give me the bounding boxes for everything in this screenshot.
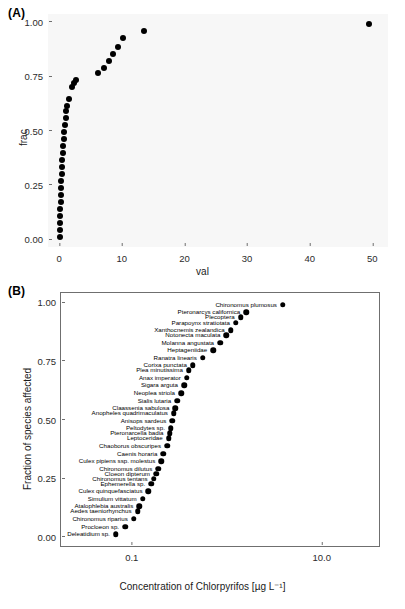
data-point	[233, 320, 239, 326]
data-point	[184, 375, 190, 381]
data-point	[59, 164, 65, 170]
species-label: Culex pipiens ssp. molestus	[79, 458, 159, 464]
tick-mark	[132, 542, 133, 545]
tick-mark	[62, 419, 65, 420]
y-tick-label: 1.00	[38, 297, 62, 308]
tick-mark	[49, 184, 52, 185]
data-point	[217, 340, 223, 346]
data-point	[173, 405, 179, 411]
x-tick-label: 10	[117, 247, 128, 264]
tick-mark	[49, 21, 52, 22]
data-point	[141, 28, 147, 34]
data-point	[110, 51, 116, 57]
panel-b-points-layer: Deleatidium sp.Procloeon sp.Chironomus r…	[61, 293, 379, 546]
x-tick-label: 0.1	[125, 546, 138, 563]
data-point	[61, 129, 67, 135]
tick-mark	[49, 76, 52, 77]
data-point	[57, 227, 63, 233]
y-tick-label: 0.00	[38, 531, 62, 542]
panel-b-plot-area: Deleatidium sp.Procloeon sp.Chironomus r…	[60, 292, 380, 547]
x-tick-label: 20	[179, 247, 190, 264]
data-point	[210, 347, 216, 353]
panel-a-plot-area: 0.000.250.500.751.00 01020304050	[48, 14, 388, 247]
tick-mark	[247, 243, 248, 246]
data-point	[243, 310, 249, 316]
data-point	[153, 471, 159, 477]
tick-mark	[62, 536, 65, 537]
panel-a: (A) frac 0.000.250.500.751.00 0102030405…	[0, 0, 405, 278]
panel-b-x-axis-title: Concentration of Chlorpyrifos [µg L⁻¹]	[0, 581, 405, 592]
data-point	[73, 77, 79, 83]
y-tick-label: 0.75	[25, 71, 49, 82]
data-point	[64, 103, 70, 109]
data-point	[200, 355, 206, 361]
species-label: Atalophlebia australis	[74, 503, 136, 509]
data-point	[60, 143, 66, 149]
figure-root: (A) frac 0.000.250.500.751.00 0102030405…	[0, 0, 405, 609]
data-point	[59, 171, 65, 177]
data-point	[115, 44, 121, 50]
data-point	[57, 234, 63, 240]
panel-b: (B) Fraction of species affected Deleati…	[0, 278, 405, 609]
data-point	[95, 70, 101, 76]
species-label: Pteronarcys californica	[178, 309, 244, 315]
data-point	[167, 431, 173, 437]
data-point	[155, 466, 161, 472]
species-label: Peltodytes sp.	[126, 425, 168, 431]
y-tick-label: 0.25	[38, 473, 62, 484]
tick-mark	[49, 239, 52, 240]
data-point	[58, 192, 64, 198]
species-label: Corixa punctata	[144, 362, 190, 368]
y-tick-label: 0.50	[25, 125, 49, 136]
data-point	[280, 302, 286, 308]
data-point	[131, 516, 137, 522]
data-point	[101, 65, 107, 71]
x-tick-label: 0	[57, 247, 62, 264]
tick-mark	[49, 130, 52, 131]
data-point	[57, 213, 63, 219]
data-point	[366, 21, 372, 27]
data-point	[161, 451, 167, 457]
y-tick-label: 1.00	[25, 16, 49, 27]
species-label: Chironomus riparius	[72, 516, 130, 522]
data-point	[228, 327, 234, 333]
data-point	[58, 199, 64, 205]
x-tick-label: 50	[367, 247, 378, 264]
data-point	[58, 185, 64, 191]
data-point	[57, 220, 63, 226]
data-point	[174, 398, 180, 404]
x-tick-label: 40	[304, 247, 315, 264]
data-point	[181, 383, 187, 389]
data-point	[60, 150, 66, 156]
data-point	[166, 436, 172, 442]
tick-mark	[184, 243, 185, 246]
species-label: Deleatidium sp.	[67, 531, 113, 537]
tick-mark	[310, 243, 311, 246]
data-point	[58, 178, 64, 184]
tick-mark	[62, 302, 65, 303]
species-label: Procloeon sp.	[81, 523, 122, 529]
species-label: Xanthocnemis zealandica	[154, 327, 228, 333]
data-point	[140, 496, 146, 502]
species-label: Ranatra linearis	[154, 355, 200, 361]
panel-a-points-layer	[48, 14, 388, 247]
y-tick-label: 0.25	[25, 179, 49, 190]
tick-mark	[59, 243, 60, 246]
species-label: Simulium vittatum	[88, 496, 140, 502]
species-label: Caenis horaria	[117, 450, 160, 456]
data-point	[113, 531, 119, 537]
x-tick-label: 10.0	[313, 546, 332, 563]
data-point	[120, 35, 126, 41]
y-tick-label: 0.75	[38, 355, 62, 366]
panel-b-tag: (B)	[8, 284, 25, 298]
species-label: Anax imperator	[139, 375, 184, 381]
panel-a-tag: (A)	[8, 6, 25, 20]
species-label: Chironomus dilutus	[99, 466, 155, 472]
data-point	[168, 426, 174, 432]
species-label: Sialis lutaria	[138, 398, 174, 404]
tick-mark	[372, 243, 373, 246]
species-label: Chironomus plumosus	[215, 302, 280, 308]
species-label: Culex quinquefasciatus	[79, 488, 146, 494]
data-point	[164, 443, 170, 449]
data-point	[146, 489, 152, 495]
